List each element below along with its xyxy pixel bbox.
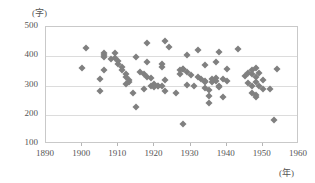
x-tick-label: 1950 bbox=[245, 148, 279, 158]
x-tick-label: 1960 bbox=[281, 148, 315, 158]
data-point bbox=[205, 100, 212, 107]
y-tick-label: 400 bbox=[10, 49, 38, 59]
y-axis-unit-label: (字) bbox=[32, 6, 47, 19]
x-tick-mark bbox=[262, 143, 263, 146]
data-point bbox=[194, 46, 201, 53]
data-point bbox=[212, 59, 219, 66]
gridline bbox=[46, 115, 297, 116]
x-tick-label: 1930 bbox=[173, 148, 207, 158]
data-point bbox=[144, 39, 151, 46]
data-point bbox=[259, 77, 266, 84]
x-tick-mark bbox=[153, 143, 154, 146]
x-tick-label: 1890 bbox=[28, 148, 62, 158]
data-point bbox=[165, 44, 172, 51]
plot-area bbox=[45, 26, 298, 143]
data-point bbox=[100, 66, 107, 73]
data-point bbox=[223, 77, 230, 84]
x-tick-label: 1940 bbox=[209, 148, 243, 158]
x-tick-mark bbox=[117, 143, 118, 146]
data-point bbox=[270, 116, 277, 123]
data-point bbox=[201, 62, 208, 69]
y-tick-label: 300 bbox=[10, 79, 38, 89]
x-tick-mark bbox=[81, 143, 82, 146]
y-tick-label: 100 bbox=[10, 137, 38, 147]
x-tick-mark bbox=[226, 143, 227, 146]
data-point bbox=[223, 65, 230, 72]
data-point bbox=[256, 69, 263, 76]
data-point bbox=[191, 82, 198, 89]
data-point bbox=[129, 89, 136, 96]
data-point bbox=[234, 46, 241, 53]
data-point bbox=[82, 45, 89, 52]
data-point bbox=[144, 59, 151, 66]
data-point bbox=[97, 76, 104, 83]
x-tick-label: 1920 bbox=[136, 148, 170, 158]
y-tick-label: 500 bbox=[10, 20, 38, 30]
data-point bbox=[162, 76, 169, 83]
data-point bbox=[220, 94, 227, 101]
data-point bbox=[173, 90, 180, 97]
data-point bbox=[216, 49, 223, 56]
data-point bbox=[100, 54, 107, 61]
x-tick-label: 1910 bbox=[100, 148, 134, 158]
data-point bbox=[97, 88, 104, 95]
x-tick-label: 1900 bbox=[64, 148, 98, 158]
y-tick-label: 200 bbox=[10, 108, 38, 118]
data-point bbox=[79, 64, 86, 71]
x-tick-mark bbox=[190, 143, 191, 146]
gridline bbox=[46, 56, 297, 57]
x-axis-unit-label: (年) bbox=[279, 166, 294, 179]
data-point bbox=[180, 120, 187, 127]
data-point bbox=[183, 81, 190, 88]
data-point bbox=[183, 52, 190, 59]
scatter-chart: (字) (年) 100200300400500 1890190019101920… bbox=[0, 0, 315, 183]
data-point bbox=[274, 65, 281, 72]
data-point bbox=[162, 88, 169, 95]
data-point bbox=[133, 54, 140, 61]
data-point bbox=[133, 103, 140, 110]
